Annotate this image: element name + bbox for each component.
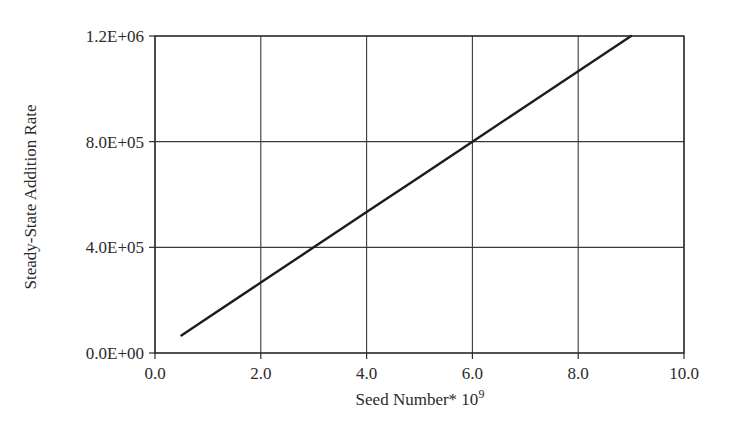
x-tick-label: 0.0 xyxy=(144,364,165,383)
y-tick-label: 8.0E+05 xyxy=(86,133,144,152)
line-chart: 0.02.04.06.08.010.0 0.0E+004.0E+058.0E+0… xyxy=(0,0,741,430)
y-tick-label: 4.0E+05 xyxy=(86,238,144,257)
y-axis-title: Steady-State Addition Rate xyxy=(21,104,40,289)
x-tick-label: 4.0 xyxy=(356,364,377,383)
x-tick-label: 8.0 xyxy=(568,364,589,383)
y-tick-label: 0.0E+00 xyxy=(86,344,144,363)
x-tick-label: 6.0 xyxy=(462,364,483,383)
x-axis-title-exponent: 9 xyxy=(478,387,484,401)
x-tick-label: 2.0 xyxy=(250,364,271,383)
plot-area xyxy=(149,36,684,359)
x-axis-tick-labels: 0.02.04.06.08.010.0 xyxy=(144,364,699,383)
plot-background xyxy=(155,36,684,353)
x-tick-label: 10.0 xyxy=(669,364,699,383)
y-axis-tick-labels: 0.0E+004.0E+058.0E+051.2E+06 xyxy=(86,27,144,363)
x-axis-title-text: Seed Number* 10 xyxy=(356,390,479,409)
y-tick-label: 1.2E+06 xyxy=(86,27,144,46)
x-axis-title: Seed Number* 109 xyxy=(356,387,485,409)
